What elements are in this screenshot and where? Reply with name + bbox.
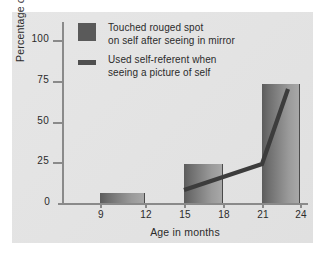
legend-bar-swatch-icon: [78, 23, 96, 41]
x-tick-15: [184, 203, 186, 208]
y-tick-label-0: 0: [44, 196, 50, 207]
bar-15-18: [184, 164, 223, 203]
y-axis-title: Percentage of children: [14, 0, 26, 62]
y-tick-0: 0: [58, 203, 64, 205]
x-tick-label-12: 12: [140, 209, 152, 220]
x-tick-label-9: 9: [98, 209, 104, 220]
legend-bar-line2: on self after seeing in mirror: [108, 35, 235, 48]
y-tick-50: 50: [53, 122, 64, 124]
bar-9-12: [100, 193, 145, 203]
x-tick-12: [145, 203, 147, 208]
x-tick-label-18: 18: [218, 209, 230, 220]
legend-line-text: Used self-referent when seeing a picture…: [108, 54, 216, 79]
legend-line-line2: seeing a picture of self: [108, 67, 216, 80]
x-tick-label-24: 24: [295, 209, 307, 220]
x-tick-label-15: 15: [179, 209, 191, 220]
y-tick-label-25: 25: [37, 155, 49, 166]
y-tick-75: 75: [53, 81, 64, 83]
legend-line-line1: Used self-referent when: [108, 54, 216, 67]
legend-entry-bar: Touched rouged spot on self after seeing…: [78, 22, 293, 47]
legend-bar-line1: Touched rouged spot: [108, 22, 235, 35]
y-axis-line: [62, 22, 64, 204]
x-tick-24: [300, 203, 302, 208]
bar-21-24: [262, 84, 300, 203]
legend-line-swatch-icon: [78, 60, 96, 65]
x-tick-18: [223, 203, 225, 208]
y-tick-100: 100: [53, 40, 64, 42]
y-tick-label-100: 100: [31, 33, 49, 44]
legend-entry-line: Used self-referent when seeing a picture…: [78, 54, 293, 79]
chart-legend: Touched rouged spot on self after seeing…: [78, 22, 293, 86]
chart-figure: 100 75 50 25 0 9 12 15 18 21 24 Percenta…: [0, 0, 325, 257]
x-tick-9: [100, 203, 102, 208]
x-axis-title: Age in months: [62, 226, 308, 238]
x-tick-21: [262, 203, 264, 208]
y-tick-label-75: 75: [37, 74, 49, 85]
legend-bar-text: Touched rouged spot on self after seeing…: [108, 22, 235, 47]
y-tick-25: 25: [53, 162, 64, 164]
y-tick-label-50: 50: [37, 115, 49, 126]
x-tick-label-21: 21: [257, 209, 269, 220]
